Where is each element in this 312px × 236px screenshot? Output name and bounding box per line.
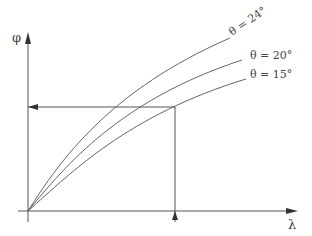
curve-label-theta-24: θ = 24° bbox=[226, 4, 268, 38]
guide-left-arrow-icon bbox=[28, 104, 38, 110]
guide-up-arrow-icon bbox=[172, 211, 178, 220]
x-axis-arrowhead-icon bbox=[286, 208, 298, 214]
curve-theta-20 bbox=[28, 60, 242, 211]
curve-label-theta-15: θ = 15° bbox=[250, 68, 292, 81]
x-axis-label: λ bbox=[288, 217, 296, 232]
curve-theta-15 bbox=[28, 79, 246, 211]
curve-theta-24 bbox=[28, 38, 230, 211]
diagram-canvas: φ λ θ = 24° θ = 20° θ = 15° bbox=[0, 0, 312, 236]
y-axis-label: φ bbox=[12, 30, 21, 45]
curve-label-theta-20: θ = 20° bbox=[250, 49, 292, 62]
y-axis-arrowhead-icon bbox=[25, 32, 31, 44]
